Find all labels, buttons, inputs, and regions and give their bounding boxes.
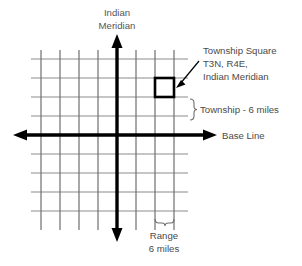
meridian-title-line1: Indian <box>104 7 130 18</box>
callout-label-line2: T3N, R4E, <box>203 58 248 69</box>
range-bracket-label-line1: Range <box>150 230 178 241</box>
base-line-label: Base Line <box>222 130 265 141</box>
range-bracket-label-line2: 6 miles <box>149 243 180 254</box>
callout-label-line1: Township Square <box>203 45 277 56</box>
township-range-diagram: Indian Meridian Base Line Township Squar… <box>0 0 302 266</box>
diagram-canvas: Indian Meridian Base Line Township Squar… <box>0 0 302 266</box>
callout-label-line3: Indian Meridian <box>203 71 269 82</box>
meridian-title-line2: Meridian <box>99 20 136 31</box>
township-bracket-label: Township - 6 miles <box>200 104 279 115</box>
